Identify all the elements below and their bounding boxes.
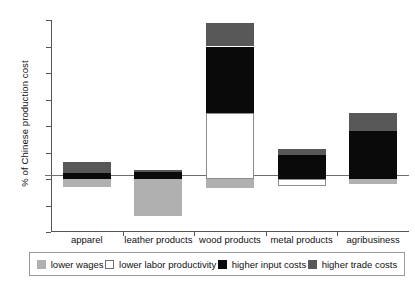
legend-item-higher-input-costs[interactable]: higher input costs <box>218 259 306 270</box>
legend-swatch-lower-wages <box>37 260 46 269</box>
y-tick-mark <box>46 126 51 127</box>
y-axis-title: % of Chinese production cost <box>19 44 30 204</box>
bar-segment <box>278 155 326 179</box>
x-tick-label-agribusiness: agribusiness <box>337 234 409 245</box>
x-tick-label-leather-products: leather products <box>123 234 195 245</box>
legend-item-lower-labor-productivity[interactable]: lower labor productivity <box>105 259 216 270</box>
x-tick-label-wood-products: wood products <box>194 234 266 245</box>
legend-label: lower labor productivity <box>119 259 216 270</box>
x-tick-label-metal-products: metal products <box>266 234 338 245</box>
stacked-bar-chart: % of Chinese production cost -40-2002040… <box>0 0 415 283</box>
plot-area: -40-20020406080100120 <box>51 20 409 232</box>
y-tick-mark <box>46 20 51 21</box>
x-axis-labels: apparelleather productswood productsmeta… <box>51 234 409 250</box>
bar-agribusiness[interactable] <box>349 20 397 232</box>
bar-metal-products[interactable] <box>278 20 326 232</box>
y-tick-mark <box>46 47 51 48</box>
x-tick-label-apparel: apparel <box>51 234 123 245</box>
bar-segment <box>278 179 326 186</box>
legend-swatch-higher-trade-costs <box>308 260 317 269</box>
legend-swatch-higher-input-costs <box>218 260 227 269</box>
bar-apparel[interactable] <box>63 20 111 232</box>
legend-label: higher input costs <box>232 259 306 270</box>
legend-label: lower wages <box>51 259 104 270</box>
bar-segment <box>206 113 254 179</box>
legend-swatch-lower-labor-productivity <box>105 260 114 269</box>
y-tick-mark <box>46 179 51 180</box>
y-tick-mark <box>46 206 51 207</box>
bar-segment <box>134 170 182 173</box>
chart-legend: lower wageslower labor productivityhighe… <box>29 252 405 276</box>
bar-segment <box>349 131 397 179</box>
y-tick-mark <box>46 73 51 74</box>
y-tick-mark <box>46 100 51 101</box>
bar-segment <box>278 149 326 156</box>
bar-wood-products[interactable] <box>206 20 254 232</box>
bar-segment <box>63 179 111 187</box>
legend-item-lower-wages[interactable]: lower wages <box>37 259 104 270</box>
y-tick-mark <box>46 153 51 154</box>
bar-segment <box>206 47 254 113</box>
bar-segment <box>349 113 397 132</box>
legend-label: higher trade costs <box>322 259 398 270</box>
bar-segment <box>134 179 182 216</box>
bar-leather-products[interactable] <box>134 20 182 232</box>
y-tick-mark <box>46 232 51 233</box>
legend-item-higher-trade-costs[interactable]: higher trade costs <box>308 259 398 270</box>
bar-segment <box>206 179 254 188</box>
bar-segment <box>206 23 254 47</box>
bar-segment <box>349 179 397 184</box>
bar-segment <box>134 172 182 179</box>
bar-segment <box>63 162 111 173</box>
